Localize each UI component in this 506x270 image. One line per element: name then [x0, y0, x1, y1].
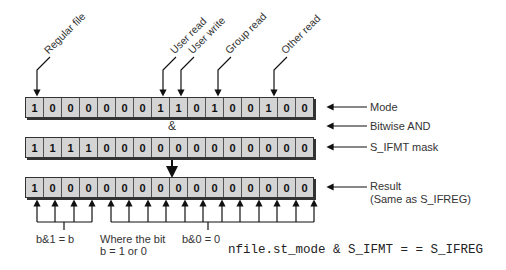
- b-and-0-note: b&0 = 0: [182, 233, 220, 246]
- where-bit-note-2: b = 1 or 0: [100, 245, 147, 258]
- mask-label: S_IFMT mask: [370, 141, 438, 154]
- b-and-1-note: b&1 = b: [36, 233, 74, 246]
- arrows-and-leaders: [0, 0, 506, 270]
- code-expression: nfile.st_mode & S_IFMT = = S_IFREG: [228, 243, 483, 257]
- and-operator: &: [168, 120, 176, 133]
- mode-label: Mode: [370, 101, 398, 114]
- result-sublabel: (Same as S_IFREG): [370, 193, 471, 206]
- result-label: Result: [370, 180, 401, 193]
- bitwise-and-label: Bitwise AND: [370, 120, 431, 133]
